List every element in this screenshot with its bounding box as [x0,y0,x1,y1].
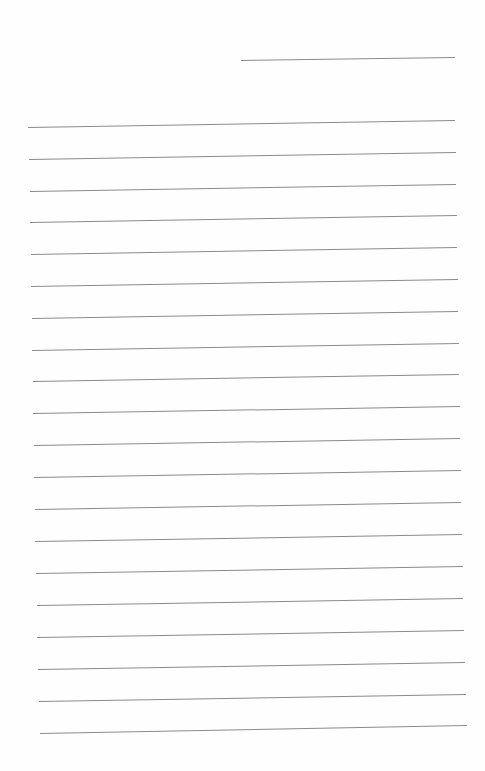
ruled-paper-page [0,0,485,771]
rule-line [32,343,459,351]
rule-line [30,184,456,192]
rule-line [37,598,463,606]
rule-line [32,311,458,319]
rule-line [31,247,457,255]
rule-line [36,566,463,574]
rule-line [33,406,460,414]
rule-line [35,534,462,542]
header-rule-line [241,57,455,61]
rule-line [30,215,457,223]
rule-line [29,152,456,160]
rule-line [37,630,464,638]
rule-line [40,725,467,734]
rule-line [38,662,465,670]
rule-line [34,470,461,478]
rule-line [34,438,460,446]
rule-line [35,502,461,510]
rule-line [28,120,455,128]
rule-line [31,279,458,287]
rule-line [33,374,459,382]
rule-line [39,694,466,702]
